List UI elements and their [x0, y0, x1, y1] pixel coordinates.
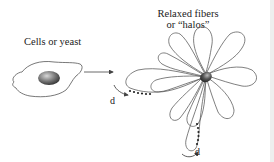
edge-stripe	[270, 0, 274, 162]
intact-cell	[13, 61, 82, 96]
distance-label-bottom: d	[195, 146, 200, 157]
diagram-canvas	[0, 0, 274, 162]
distance-label-left: d	[110, 95, 115, 106]
halo-structure	[126, 27, 257, 151]
distance-arc-left	[114, 85, 128, 95]
cell-nucleus	[38, 71, 60, 85]
